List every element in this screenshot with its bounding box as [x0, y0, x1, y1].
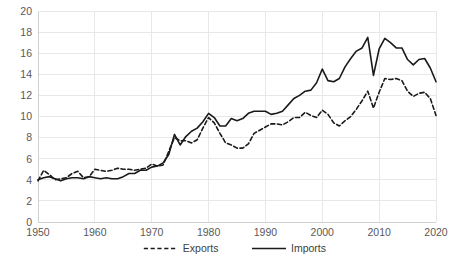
y-axis-tick-label: 8 [26, 131, 32, 143]
y-axis-tick-label: 10 [20, 110, 32, 122]
legend-label-exports: Exports [183, 242, 219, 254]
line-chart: 02468101214161820 1950196019701980199020… [0, 0, 453, 270]
y-axis-tick-label: 16 [20, 47, 32, 59]
legend-label-imports: Imports [291, 242, 326, 254]
y-axis-tick-label: 14 [20, 68, 32, 80]
x-axis-tick-label: 2020 [424, 226, 448, 238]
y-axis-tick-label: 12 [20, 89, 32, 101]
x-axis-tick-label: 1980 [197, 226, 221, 238]
y-axis-tick-label: 6 [26, 153, 32, 165]
y-axis-tick-label: 4 [26, 174, 32, 186]
x-axis-tick-label: 1950 [26, 226, 50, 238]
x-axis-tick-label: 1990 [254, 226, 278, 238]
x-axis-tick-label: 1970 [140, 226, 164, 238]
chart-container: 02468101214161820 1950196019701980199020… [0, 0, 453, 270]
y-axis-tick-label: 2 [26, 195, 32, 207]
x-axis-tick-label: 1960 [83, 226, 107, 238]
y-axis-tick-label: 20 [20, 5, 32, 17]
x-axis-tick-label: 2000 [311, 226, 335, 238]
y-axis-tick-label: 18 [20, 26, 32, 38]
x-axis-tick-label: 2010 [367, 226, 391, 238]
